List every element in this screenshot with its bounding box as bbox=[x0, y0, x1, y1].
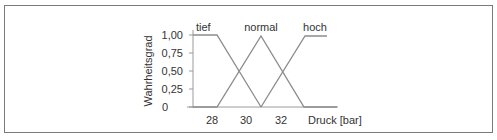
series-label-normal: normal bbox=[244, 21, 278, 33]
y-tick-label: 0,25 bbox=[162, 83, 183, 95]
y-ticks bbox=[189, 35, 193, 107]
series-tief-line bbox=[193, 35, 261, 107]
series-label-tief: tief bbox=[196, 21, 212, 33]
series-hoch-line bbox=[261, 36, 327, 107]
series-normal-line bbox=[193, 36, 337, 107]
y-tick-label: 0 bbox=[162, 101, 168, 113]
x-axis-title: Druck [bar] bbox=[308, 114, 362, 126]
y-tick-label: 1,00 bbox=[162, 29, 183, 41]
x-tick-label: 30 bbox=[240, 114, 252, 126]
series-label-hoch: hoch bbox=[303, 21, 327, 33]
membership-function-chart: 1,00 0,75 0,50 0,25 0 Wahrheitsgrad 28 3… bbox=[0, 0, 497, 140]
y-axis-title: Wahrheitsgrad bbox=[142, 35, 154, 106]
y-tick-label: 0,50 bbox=[162, 65, 183, 77]
x-tick-label: 32 bbox=[275, 114, 287, 126]
x-tick-label: 28 bbox=[206, 114, 218, 126]
y-tick-label: 0,75 bbox=[162, 47, 183, 59]
